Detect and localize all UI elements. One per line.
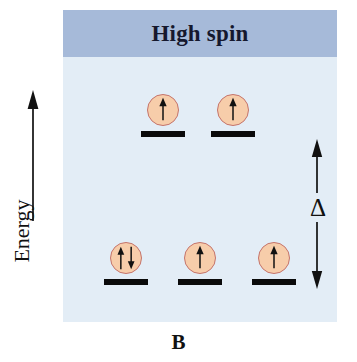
lower-level-bar-3 xyxy=(252,279,296,285)
spin-up-arrow-icon xyxy=(259,243,289,273)
lower-level-bar-2 xyxy=(178,279,222,285)
spin-up-arrow-icon xyxy=(148,95,178,125)
figure-caption: B xyxy=(0,332,357,353)
upper-orbital-1 xyxy=(147,94,179,126)
energy-axis-label: Energy xyxy=(9,171,35,291)
diagram-panel: High spin xyxy=(63,10,337,322)
high-spin-header-band: High spin xyxy=(63,10,337,57)
spin-up-arrow-icon xyxy=(218,95,248,125)
upper-level-bar-2 xyxy=(211,131,255,137)
upper-level-bar-1 xyxy=(141,131,185,137)
lower-orbital-1 xyxy=(110,242,142,274)
delta-symbol-label: Δ xyxy=(306,193,330,222)
spin-up-arrow-icon xyxy=(185,243,215,273)
lower-level-bar-1 xyxy=(104,279,148,285)
lower-orbital-2 xyxy=(184,242,216,274)
lower-orbital-3 xyxy=(258,242,290,274)
crystal-field-splitting-figure: High spin xyxy=(0,0,357,362)
high-spin-title: High spin xyxy=(151,22,248,45)
spin-paired-arrows-icon xyxy=(111,243,141,273)
upper-orbital-2 xyxy=(217,94,249,126)
